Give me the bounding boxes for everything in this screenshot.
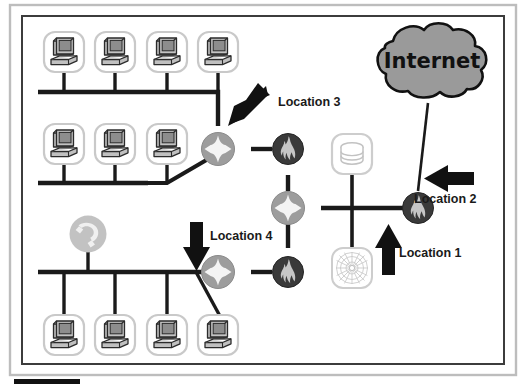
telephone-icon[interactable] — [70, 216, 107, 253]
internet-cloud-label: Internet — [384, 49, 481, 73]
location-1-label: Location 1 — [399, 246, 462, 260]
bottom-black-bar — [14, 379, 80, 384]
workstation-mid-2[interactable] — [95, 124, 135, 164]
workstation-top-2[interactable] — [95, 32, 135, 72]
location-4-label: Location 4 — [210, 229, 273, 243]
network-topology-diagram: Internet — [0, 0, 526, 390]
workstation-bot-4[interactable] — [198, 315, 238, 355]
workstation-top-1[interactable] — [44, 32, 84, 72]
location-3-label: Location 3 — [278, 95, 341, 109]
database-icon[interactable] — [332, 134, 372, 174]
workstation-top-4[interactable] — [198, 32, 238, 72]
router-core[interactable] — [272, 192, 305, 225]
diagram-canvas: Internet — [0, 0, 526, 390]
workstation-bot-2[interactable] — [95, 315, 135, 355]
workstation-bot-1[interactable] — [44, 315, 84, 355]
location-2-label: Location 2 — [414, 192, 477, 206]
router-lower-branch[interactable] — [202, 256, 235, 289]
workstation-bot-3[interactable] — [147, 315, 187, 355]
workstation-mid-1[interactable] — [44, 124, 84, 164]
web-server-icon[interactable] — [332, 248, 372, 288]
workstation-mid-3[interactable] — [147, 124, 187, 164]
router-upper-branch[interactable] — [202, 133, 235, 166]
firewall-upper[interactable] — [273, 134, 304, 165]
workstation-top-3[interactable] — [147, 32, 187, 72]
firewall-lower[interactable] — [273, 257, 304, 288]
